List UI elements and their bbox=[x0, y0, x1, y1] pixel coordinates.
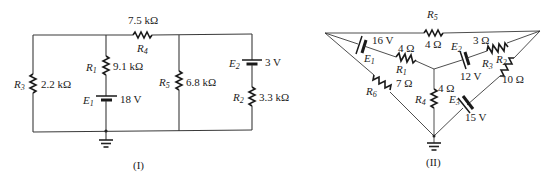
wire bbox=[514, 31, 540, 58]
r2-label: R2 bbox=[232, 91, 244, 105]
resistor-r2 bbox=[487, 43, 508, 53]
r4-label: R4 bbox=[136, 42, 148, 56]
r2-value: 3.3 kΩ bbox=[259, 91, 289, 103]
r5-value: 4 Ω bbox=[425, 38, 441, 50]
wire bbox=[434, 60, 462, 69]
e3-value: 15 V bbox=[465, 111, 487, 123]
resistor-r6 bbox=[373, 75, 391, 90]
caption-circuit-1: (I) bbox=[133, 159, 144, 172]
wire bbox=[325, 33, 358, 44]
caption-circuit-2: (II) bbox=[426, 156, 441, 169]
wire bbox=[416, 61, 434, 69]
resistor-r1 bbox=[396, 53, 416, 63]
e1-value: 16 V bbox=[372, 34, 394, 46]
e1-label: E1 bbox=[363, 52, 375, 66]
resistor-r5 bbox=[176, 71, 182, 90]
r2-value: 3 Ω bbox=[473, 34, 489, 46]
resistor-r5 bbox=[424, 30, 443, 36]
r1-label: R1 bbox=[85, 61, 97, 75]
r6-label: R6 bbox=[365, 85, 377, 99]
resistor-r3 bbox=[30, 74, 36, 93]
wire bbox=[390, 92, 434, 136]
r3-label: R3 bbox=[481, 57, 493, 71]
r1-value: 4 Ω bbox=[398, 42, 414, 54]
r4-value: 7.5 kΩ bbox=[128, 14, 158, 26]
r4-label: R4 bbox=[414, 93, 426, 107]
wire bbox=[507, 31, 540, 43]
r3-value: 2.2 kΩ bbox=[41, 78, 71, 90]
r2-label: R2 bbox=[495, 53, 507, 67]
resistor-r1 bbox=[103, 56, 109, 75]
junction-dot bbox=[104, 129, 107, 132]
wire bbox=[33, 130, 252, 132]
wire bbox=[443, 31, 540, 33]
r3-value: 10 Ω bbox=[502, 73, 524, 85]
circuit-2: R5 4 Ω 16 V E1 4 Ω R1 7 Ω R6 E2 12 V 3 Ω… bbox=[325, 8, 540, 169]
r6-value: 7 Ω bbox=[396, 77, 412, 89]
r5-label: R5 bbox=[426, 8, 438, 22]
e2-value: 12 V bbox=[460, 70, 482, 82]
e2-label: E2 bbox=[450, 40, 462, 54]
r3-label: R3 bbox=[13, 78, 25, 92]
resistor-r4 bbox=[431, 89, 437, 108]
resistor-r2 bbox=[249, 87, 255, 106]
resistor-r4 bbox=[133, 32, 152, 38]
e2-label: E2 bbox=[228, 57, 240, 71]
wire bbox=[434, 108, 463, 136]
r1-value: 9.1 kΩ bbox=[113, 60, 143, 72]
e2-value: 3 V bbox=[265, 56, 281, 68]
junction-dot bbox=[433, 135, 436, 138]
ground-icon bbox=[427, 143, 441, 150]
circuit-1: 7.5 kΩ R4 R3 2.2 kΩ R1 9.1 kΩ E1 18 V R5… bbox=[13, 14, 289, 172]
e1-label: E1 bbox=[82, 94, 94, 108]
battery-e2-short-plate bbox=[465, 52, 469, 65]
e3-label: E3 bbox=[448, 93, 460, 107]
wire bbox=[152, 34, 252, 35]
circuit-diagrams: 7.5 kΩ R4 R3 2.2 kΩ R1 9.1 kΩ E1 18 V R5… bbox=[0, 0, 553, 180]
r1-label: R1 bbox=[395, 63, 407, 77]
r5-value: 6.8 kΩ bbox=[186, 76, 216, 88]
r5-label: R5 bbox=[158, 76, 170, 90]
ground-icon bbox=[99, 140, 113, 147]
e1-value: 18 V bbox=[120, 93, 142, 105]
